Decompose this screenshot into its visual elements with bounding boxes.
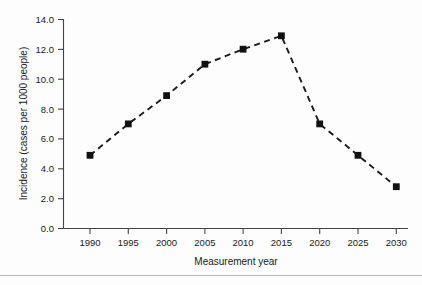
x-axis-tick-labels: 1990 1995 2000 2005 2010 2015 2020 2025 … bbox=[79, 237, 406, 248]
y-tick-label-14: 14.0 bbox=[36, 14, 55, 25]
data-point-1990 bbox=[87, 152, 94, 159]
y-tick-label-4: 4.0 bbox=[41, 163, 54, 174]
x-tick-label-2010: 2010 bbox=[233, 237, 254, 248]
x-tick-label-2000: 2000 bbox=[156, 237, 177, 248]
y-tick-label-10: 10.0 bbox=[36, 74, 55, 85]
incidence-line-chart: 0.0 2.0 4.0 6.0 8.0 10.0 12.0 14.0 1990 … bbox=[0, 0, 422, 285]
y-tick-label-0: 0.0 bbox=[41, 223, 54, 234]
data-point-2025 bbox=[355, 152, 362, 159]
x-axis-title: Measurement year bbox=[194, 256, 278, 267]
y-tick-label-6: 6.0 bbox=[41, 133, 54, 144]
chart-figure: 0.0 2.0 4.0 6.0 8.0 10.0 12.0 14.0 1990 … bbox=[0, 0, 422, 285]
x-tick-label-1990: 1990 bbox=[79, 237, 100, 248]
x-axis-ticks bbox=[90, 229, 396, 235]
x-tick-label-2025: 2025 bbox=[347, 237, 368, 248]
x-tick-label-2030: 2030 bbox=[386, 237, 407, 248]
y-axis-ticks bbox=[58, 20, 64, 229]
data-point-2005 bbox=[202, 61, 209, 68]
x-tick-label-1995: 1995 bbox=[118, 237, 139, 248]
data-point-2030 bbox=[393, 183, 400, 190]
y-axis-title: Incidence (cases per 1000 people) bbox=[18, 47, 29, 200]
x-tick-label-2015: 2015 bbox=[271, 237, 292, 248]
y-tick-label-8: 8.0 bbox=[41, 104, 54, 115]
data-point-2015 bbox=[278, 32, 285, 39]
data-point-2020 bbox=[316, 121, 323, 128]
plot-area-background bbox=[63, 19, 408, 228]
x-tick-label-2020: 2020 bbox=[309, 237, 330, 248]
data-point-2010 bbox=[240, 46, 247, 53]
y-axis-tick-labels: 0.0 2.0 4.0 6.0 8.0 10.0 12.0 14.0 bbox=[36, 14, 55, 234]
y-tick-label-12: 12.0 bbox=[36, 44, 55, 55]
x-tick-label-2005: 2005 bbox=[194, 237, 215, 248]
data-point-2000 bbox=[163, 92, 170, 99]
y-tick-label-2: 2.0 bbox=[41, 193, 54, 204]
data-point-1995 bbox=[125, 121, 132, 128]
